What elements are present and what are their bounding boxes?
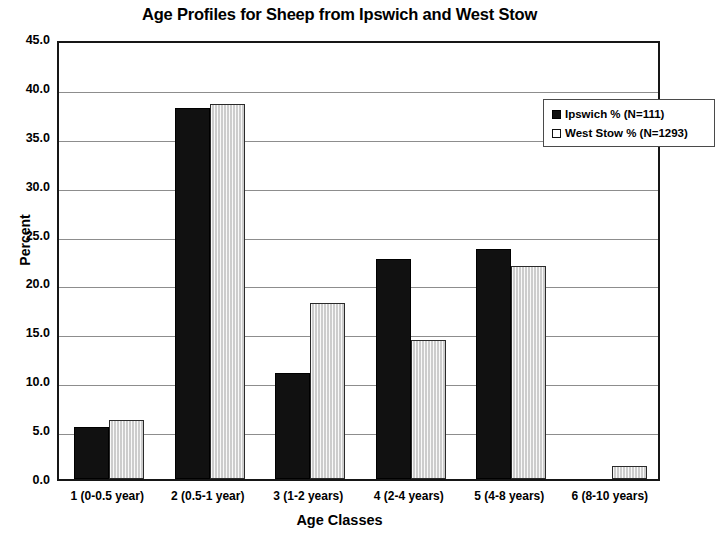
y-axis-tick: 25.0 [4,229,50,243]
chart-title: Age Profiles for Sheep from Ipswich and … [0,5,679,24]
bar [612,466,647,479]
hollow-square-icon [552,129,561,138]
bar [275,373,310,479]
y-axis-tick: 5.0 [4,424,50,438]
legend-item: Ipswich % (N=111) [552,105,714,124]
bar [511,266,546,479]
y-axis-tick: 10.0 [4,375,50,389]
y-axis-tick: 20.0 [4,277,50,291]
y-axis-tick: 30.0 [4,180,50,194]
gridline [59,190,658,191]
bar [376,259,411,479]
x-axis-tick: 6 (8-10 years) [560,489,661,503]
gridline [59,434,658,435]
x-axis-tick: 5 (4-8 years) [459,489,560,503]
x-axis-tick: 2 (0.5-1 year) [158,489,259,503]
bar [74,427,109,479]
gridline [59,92,658,93]
filled-square-icon [552,110,561,119]
gridline [59,287,658,288]
plot-area: Ipswich % (N=111)West Stow % (N=1293) [57,41,660,481]
x-axis-tick: 3 (1-2 years) [258,489,359,503]
gridline [59,336,658,337]
y-axis-tick: 45.0 [4,33,50,47]
bar [476,249,511,479]
y-axis-tick: 40.0 [4,82,50,96]
legend-item: West Stow % (N=1293) [552,124,714,143]
legend-label: Ipswich % (N=111) [565,109,664,121]
bar [411,340,446,479]
x-axis-tick: 1 (0-0.5 year) [57,489,158,503]
bar [175,108,210,479]
bar [109,420,144,479]
x-axis-label: Age Classes [0,512,679,528]
y-axis-tick: 35.0 [4,131,50,145]
x-axis-tick: 4 (2-4 years) [359,489,460,503]
legend: Ipswich % (N=111)West Stow % (N=1293) [543,99,715,147]
bar [210,104,245,479]
y-axis-tick: 0.0 [4,473,50,487]
legend-label: West Stow % (N=1293) [565,128,688,140]
gridline [59,385,658,386]
gridline [59,239,658,240]
bar [310,303,345,479]
y-axis-tick: 15.0 [4,326,50,340]
